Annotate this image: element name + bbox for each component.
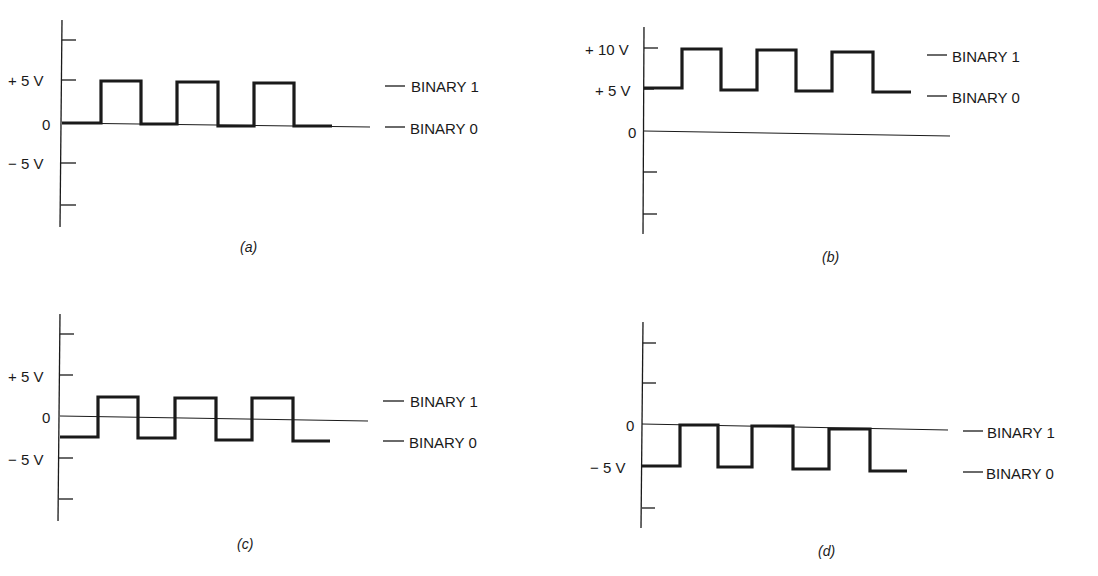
legend-binary-0: BINARY 0 (409, 434, 477, 451)
y-axis (58, 314, 60, 521)
y-axis (60, 20, 62, 227)
legend-binary-0: BINARY 0 (410, 120, 478, 137)
zero-line (644, 131, 950, 136)
legend-binary-1: BINARY 1 (411, 78, 479, 95)
panel-b (643, 27, 950, 234)
panel-a (60, 20, 405, 227)
y-label-plus-5v: + 5 V (595, 82, 630, 99)
legend-binary-1: BINARY 1 (952, 48, 1020, 65)
caption-d: (d) (818, 543, 835, 559)
square-wave (62, 81, 332, 126)
y-label-minus-5v: − 5 V (590, 459, 625, 476)
zero-line (60, 416, 368, 421)
y-label-zero: 0 (628, 124, 636, 141)
figure-canvas: + 5 V 0 − 5 V BINARY 1 BINARY 0 (a) + 10… (0, 0, 1098, 576)
legend-binary-0: BINARY 0 (986, 465, 1054, 482)
y-label-plus-10v: + 10 V (585, 41, 629, 58)
square-wave (642, 425, 907, 471)
y-label-minus-5v: − 5 V (8, 451, 43, 468)
panel-d (641, 322, 983, 528)
legend-binary-0: BINARY 0 (952, 89, 1020, 106)
square-wave (644, 49, 911, 92)
legend-binary-1: BINARY 1 (410, 393, 478, 410)
y-label-zero: 0 (626, 417, 634, 434)
y-ticks (642, 343, 656, 508)
square-wave (60, 397, 330, 441)
y-label-zero: 0 (42, 116, 50, 133)
y-axis (643, 27, 644, 234)
y-axis (641, 322, 643, 528)
panel-c (58, 314, 404, 521)
y-label-plus-5v: + 5 V (8, 368, 43, 385)
caption-a: (a) (240, 239, 257, 255)
caption-c: (c) (237, 536, 253, 552)
y-label-plus-5v: + 5 V (8, 72, 43, 89)
y-label-zero: 0 (42, 409, 50, 426)
legend-binary-1: BINARY 1 (987, 424, 1055, 441)
y-label-minus-5v: − 5 V (8, 155, 43, 172)
caption-b: (b) (822, 249, 839, 265)
